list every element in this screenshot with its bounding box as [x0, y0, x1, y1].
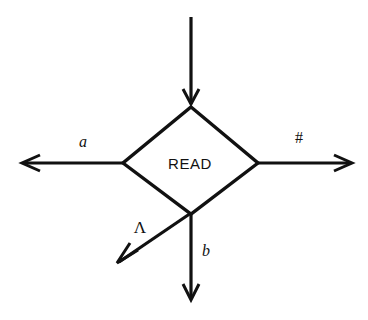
- decision-node-label: READ: [168, 155, 212, 172]
- edge-label-lambda: Λ: [134, 218, 147, 237]
- edge-label-a: a: [79, 133, 87, 150]
- edge-label-hash: #: [295, 129, 303, 146]
- edge-branch-diagonal-lambda: Λ: [117, 213, 191, 263]
- edge-branch-left-a: a: [22, 133, 124, 171]
- edge-label-b: b: [202, 242, 210, 259]
- edge-branch-bottom-b: b: [183, 213, 210, 300]
- edge-branch-right-hash: #: [256, 129, 352, 171]
- diagram-canvas: a # Λ b READ: [0, 0, 368, 320]
- edge-incoming-top: [183, 17, 199, 104]
- flowchart-svg: a # Λ b READ: [0, 0, 368, 320]
- decision-node-read[interactable]: READ: [123, 107, 258, 214]
- arrowhead-down-left-icon: [117, 243, 138, 263]
